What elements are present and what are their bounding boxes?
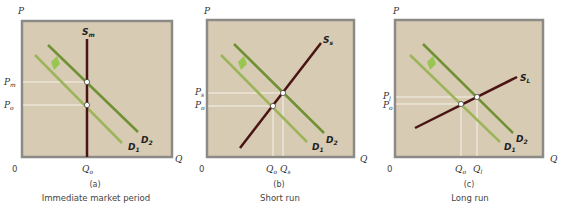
- price-label-po: Po: [3, 100, 14, 111]
- equilibrium-point-new: [280, 90, 285, 95]
- price-label-po: Po: [194, 100, 205, 111]
- origin-label: 0: [199, 164, 204, 174]
- origin-label: 0: [387, 164, 392, 174]
- panel-caption: Long run: [451, 193, 489, 203]
- quantity-label-qo: Qo: [266, 164, 277, 175]
- equilibrium-point-new: [84, 79, 89, 84]
- supply-demand-diagram: P Q 0 Sm D1 D2 Pm Po Qo (a) Immediate ma…: [0, 0, 562, 207]
- y-axis-label: P: [392, 6, 400, 16]
- panel-id-label: (b): [273, 180, 284, 189]
- x-axis-label: Q: [360, 154, 368, 164]
- price-label-ps: Ps: [194, 87, 204, 98]
- panel-id-label: (a): [89, 180, 100, 189]
- panel-caption: Immediate market period: [42, 193, 150, 203]
- plot-area: [22, 21, 172, 157]
- panel-caption: Short run: [260, 193, 300, 203]
- price-label-po: Po: [382, 100, 393, 111]
- x-axis-label: Q: [550, 154, 558, 164]
- x-axis-label: Q: [175, 154, 183, 164]
- equilibrium-point-initial: [84, 102, 89, 107]
- quantity-label-qo: Qo: [455, 164, 466, 175]
- panel-a-immediate-market-period: P Q 0 Sm D1 D2 Pm Po Qo (a) Immediate ma…: [3, 6, 183, 203]
- equilibrium-point-new: [474, 94, 479, 99]
- y-axis-label: P: [17, 6, 25, 16]
- y-axis-label: P: [203, 6, 211, 16]
- origin-label: 0: [12, 164, 17, 174]
- equilibrium-point-initial: [270, 103, 275, 108]
- panel-id-label: (c): [464, 180, 475, 189]
- quantity-label-qo: Qo: [82, 164, 93, 175]
- quantity-label-ql: Ql: [473, 164, 482, 175]
- panel-c-long-run: P Q 0 SL D1 D2 Pl Po Qo Ql (c) Long run: [382, 6, 558, 203]
- panel-b-short-run: P Q 0 Ss D1 D2 Ps Po Qo Qs (b) Short run: [194, 6, 368, 203]
- quantity-label-qs: Qs: [280, 164, 290, 175]
- equilibrium-point-initial: [458, 101, 463, 106]
- price-label-pm: Pm: [3, 77, 16, 88]
